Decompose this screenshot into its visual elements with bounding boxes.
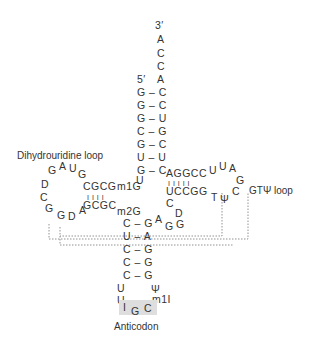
anticodon-base: I [123, 302, 126, 313]
d-loop-base: A [59, 161, 67, 172]
acceptor-overhang-c: C [157, 48, 165, 59]
anticodon-pair: C – G [123, 218, 153, 229]
anticodon-pair: C – G [123, 257, 153, 268]
anticodon-pair: C – G [123, 244, 153, 255]
variable-loop-base: A [155, 214, 163, 225]
t-loop-base: Ψ [220, 194, 229, 205]
d-loop-base: G [57, 210, 66, 221]
d-arm-modified-m1g: m1G [117, 181, 141, 192]
d-loop-base: D [41, 179, 49, 190]
gt-psi-loop-label: GTΨ loop [249, 185, 293, 196]
anticodon-pair: C – G [123, 270, 153, 281]
t-loop-base: C [232, 186, 240, 197]
d-arm-bottom-strand: GCGC [83, 200, 117, 211]
anticodon-base: G [131, 306, 140, 317]
t-loop-base: T [211, 192, 218, 203]
acceptor-overhang-a: A [157, 34, 165, 45]
d-loop-base: U [69, 163, 77, 174]
t-arm-bottom-strand: UCCGG [166, 186, 208, 197]
anticodon-base: C [144, 303, 152, 314]
anticodon-pair: U – A [123, 231, 151, 242]
d-loop-base: G [78, 169, 87, 180]
acceptor-pair: U – U [137, 152, 166, 163]
acceptor-pair: C – G [137, 126, 167, 137]
acceptor-pair: G – C [137, 100, 167, 111]
t-loop-base: U [209, 165, 217, 176]
acceptor-overhang-a: A [157, 74, 165, 85]
anticodon-arm-modified-m2g: m2G [117, 206, 141, 217]
d-loop-base: G [48, 165, 57, 176]
acceptor-overhang-c: C [157, 61, 165, 72]
anticodon-loop-base: U [117, 283, 125, 294]
variable-loop-base: G [176, 219, 185, 230]
t-loop-base: A [229, 163, 237, 174]
d-loop-base: D [68, 211, 76, 222]
d-loop-base: A [79, 205, 87, 216]
variable-loop-base: G [165, 221, 174, 232]
three-prime-end: 3′ [155, 20, 164, 31]
acceptor-pair: G – C [137, 139, 167, 150]
d-loop-base: G [45, 203, 54, 214]
acceptor-pair: G – U [137, 113, 167, 124]
acceptor-pair: G – C [137, 87, 167, 98]
d-arm-top-strand: CGCG [83, 181, 117, 192]
five-prime-end: 5′ [137, 74, 146, 85]
t-loop-base: U [219, 161, 227, 172]
anticodon-label: Anticodon [114, 321, 158, 332]
variable-loop-base: C [166, 198, 174, 209]
